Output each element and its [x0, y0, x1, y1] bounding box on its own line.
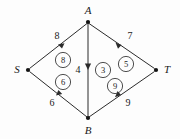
- flow-badge-a-t: 5: [118, 56, 133, 71]
- edge-line-b-t: [89, 72, 155, 118]
- vertex-dot-a: [86, 20, 90, 24]
- edge-a-t: [89, 24, 155, 69]
- vertex-dot-b: [86, 116, 90, 120]
- graph-canvas: 8 7 4 6 9 8 5 3 6 9: [0, 0, 180, 139]
- flow-value-s-a: 8: [61, 55, 65, 65]
- flow-badge-a-b: 3: [95, 62, 110, 77]
- capacity-label-a-b: 4: [76, 64, 81, 75]
- vertex-label-a: A: [84, 4, 92, 16]
- edge-a-b: [85, 23, 91, 117]
- flow-value-b-s: 6: [61, 77, 65, 87]
- vertex-label-t: T: [164, 63, 171, 75]
- flow-value-b-t: 9: [113, 81, 117, 91]
- arrowhead-a-b: [85, 64, 91, 71]
- capacity-label-b-t: 9: [126, 97, 131, 108]
- flow-badge-s-a: 8: [55, 52, 70, 67]
- vertex-label-s: S: [14, 63, 20, 75]
- capacity-label-b-s: 6: [50, 97, 55, 108]
- capacity-label-s-a: 8: [55, 30, 60, 41]
- vertex-label-b: B: [85, 124, 92, 136]
- flow-badge-b-s: 6: [55, 74, 70, 89]
- vertex-dot-t: [154, 68, 158, 72]
- flow-value-a-b: 3: [101, 65, 105, 75]
- capacity-label-a-t: 7: [128, 30, 133, 41]
- edge-line-a-t: [89, 24, 155, 69]
- vertex-dot-s: [26, 68, 30, 72]
- flow-value-a-t: 5: [124, 59, 128, 69]
- edge-b-s: [30, 72, 88, 118]
- flow-network-diagram: 8 7 4 6 9 8 5 3 6 9: [0, 0, 180, 139]
- edge-b-t: [89, 72, 155, 118]
- flow-badge-b-t: 9: [107, 78, 122, 93]
